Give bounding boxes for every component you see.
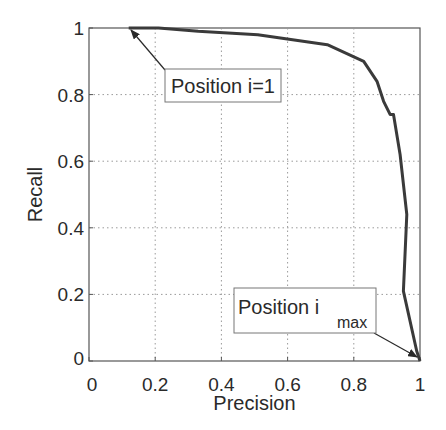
y-axis-ticks: 00.20.40.60.81	[58, 18, 93, 369]
y-tick-label: 0.4	[58, 218, 85, 239]
y-axis-title: Recall	[24, 167, 46, 223]
y-tick-label: 0.6	[58, 151, 84, 172]
x-tick-label: 0.8	[341, 374, 367, 395]
x-axis-title: Precision	[213, 392, 295, 414]
annotation-label: Position i=1	[171, 75, 275, 97]
annotation-label: Position i	[238, 296, 319, 318]
x-tick-label: 0	[87, 374, 98, 395]
precision-recall-chart: 00.20.40.60.81 00.20.40.60.81 Precision …	[0, 0, 446, 430]
y-tick-label: 1	[73, 18, 84, 39]
x-tick-label: 0.2	[142, 374, 168, 395]
annotation-subscript: max	[337, 314, 367, 331]
x-tick-label: 1	[415, 374, 426, 395]
y-tick-label: 0.8	[58, 85, 84, 106]
x-axis-ticks: 00.20.40.60.81	[87, 357, 426, 395]
y-tick-label: 0	[73, 348, 84, 369]
y-tick-label: 0.2	[58, 284, 84, 305]
